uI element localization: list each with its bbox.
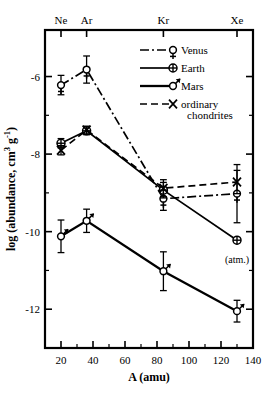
legend-item-ordinary: ordinarychondrites <box>140 98 233 121</box>
legend: VenusEarthMarsordinarychondrites <box>140 44 233 121</box>
data-point <box>58 229 69 240</box>
data-point <box>83 66 90 78</box>
data-point <box>234 304 245 315</box>
svg-text:Kr: Kr <box>158 14 170 26</box>
legend-item-mars: Mars <box>140 79 204 92</box>
figure-container: 20406080100120140A (amu)NeArKrXe-6-8-10-… <box>0 0 276 397</box>
annotation: (atm.) <box>225 254 249 266</box>
data-point <box>83 213 94 224</box>
legend-label: Mars <box>181 80 204 92</box>
abundance-vs-mass-chart: 20406080100120140A (amu)NeArKrXe-6-8-10-… <box>0 0 276 397</box>
data-point <box>233 236 241 244</box>
svg-text:Xe: Xe <box>231 14 244 26</box>
svg-text:-6: -6 <box>31 71 41 83</box>
legend-label: Venus <box>181 44 208 56</box>
data-point <box>58 82 65 94</box>
svg-text:60: 60 <box>120 354 132 366</box>
svg-text:40: 40 <box>88 354 100 366</box>
svg-text:120: 120 <box>213 354 230 366</box>
series-ordinary-chondrites <box>57 126 241 197</box>
svg-text:Ar: Ar <box>81 14 93 26</box>
svg-text:A (amu): A (amu) <box>128 370 170 384</box>
legend-item-venus: Venus <box>140 44 208 59</box>
legend-label: Earth <box>181 62 205 74</box>
legend-item-earth: Earth <box>140 62 205 74</box>
y-axis-label: log (abundance, cm3 g-1) <box>2 127 18 251</box>
top-axis: NeArKrXe <box>55 14 244 37</box>
data-point <box>160 264 171 275</box>
series-earth <box>57 127 241 244</box>
svg-text:20: 20 <box>56 354 68 366</box>
y-axis: -6-8-10-12 <box>25 71 253 316</box>
plot-frame <box>45 30 253 348</box>
svg-text:-10: -10 <box>25 226 40 238</box>
svg-text:Ne: Ne <box>55 14 68 26</box>
svg-text:-12: -12 <box>25 303 40 315</box>
svg-text:-8: -8 <box>31 148 41 160</box>
legend-label: chondrites <box>187 109 233 121</box>
svg-text:100: 100 <box>181 354 198 366</box>
svg-text:140: 140 <box>245 354 262 366</box>
svg-text:80: 80 <box>152 354 164 366</box>
series-venus <box>58 56 241 223</box>
svg-text:log (abundance, cm3 g-1): log (abundance, cm3 g-1) <box>2 127 18 251</box>
